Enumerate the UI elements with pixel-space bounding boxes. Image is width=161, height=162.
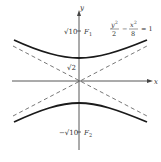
x-axis-label: x: [154, 78, 158, 86]
hyperbola-upper-branch: [14, 40, 147, 58]
equation-minus: −: [122, 25, 127, 33]
vertex-value: √2: [67, 64, 76, 72]
equation-num1-exp: 2: [115, 20, 118, 25]
lower-focus-subscript: 2: [89, 132, 92, 138]
equation-den2: 8: [131, 30, 135, 38]
equation-num2-exp: 2: [134, 20, 137, 25]
lower-focus-value: −√10: [59, 129, 78, 137]
upper-focus-value: √10: [64, 28, 77, 36]
equation-rhs: = 1: [141, 25, 153, 33]
x-axis-arrow-icon: [147, 79, 153, 83]
upper-focus-subscript: 1: [89, 31, 92, 37]
hyperbola-diagram: y x √10 F 1 √2 −√10 F 2 y 2 2 − x 2 8 = …: [0, 0, 161, 162]
y-axis-label: y: [79, 4, 85, 12]
equation-den1: 2: [112, 30, 116, 38]
hyperbola-equation: y 2 2 − x 2 8 = 1: [110, 20, 153, 38]
